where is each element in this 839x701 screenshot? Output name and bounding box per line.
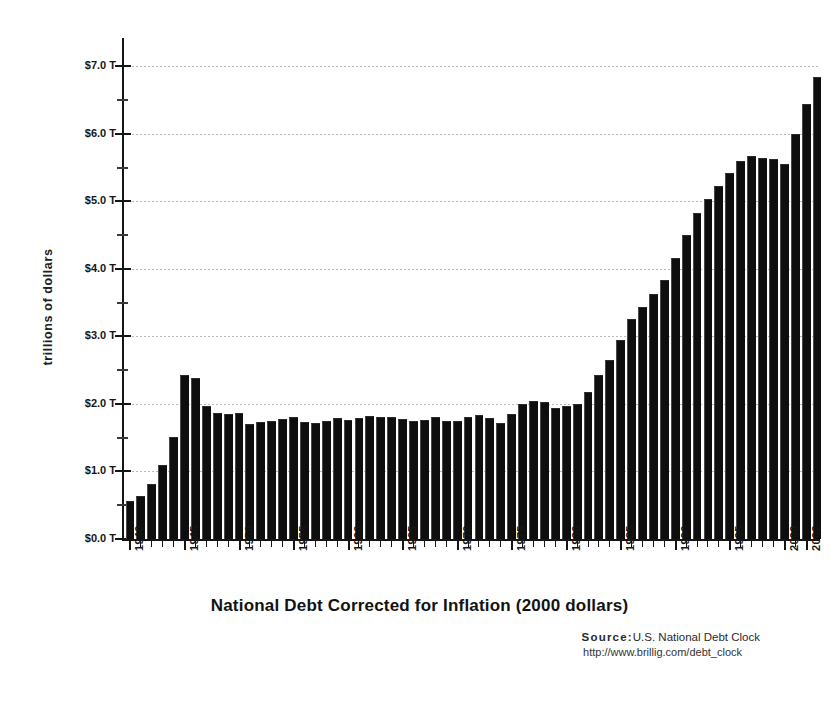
bar (158, 465, 167, 539)
y-tick-minor (117, 234, 128, 236)
bar (267, 421, 276, 540)
bar (213, 413, 222, 539)
y-tick-major (115, 65, 131, 67)
x-tick (686, 539, 687, 547)
y-tick-major (115, 200, 131, 202)
x-tick (620, 539, 622, 550)
bar (518, 404, 527, 539)
bar (791, 134, 800, 539)
x-tick (435, 539, 436, 547)
x-tick (522, 539, 523, 547)
bar (671, 258, 680, 539)
x-tick (402, 539, 404, 550)
y-tick-label: $1.0 T (46, 464, 116, 476)
x-tick (740, 539, 741, 547)
x-tick (729, 539, 731, 550)
bar (475, 415, 484, 539)
gridline (124, 66, 820, 67)
y-tick-minor (117, 99, 128, 101)
bar (464, 417, 473, 539)
bar (605, 360, 614, 539)
x-tick (751, 539, 752, 547)
bar (704, 199, 713, 539)
bar (562, 406, 571, 539)
x-tick (195, 539, 196, 547)
bar (202, 406, 211, 539)
y-tick-label: $7.0 T (46, 59, 116, 71)
y-tick-label: $0.0 T (46, 532, 116, 544)
bar (747, 156, 756, 539)
bar (714, 186, 723, 539)
y-tick-label: $6.0 T (46, 127, 116, 139)
bar (289, 417, 298, 539)
source-name: U.S. National Debt Clock (633, 631, 760, 643)
bar (627, 319, 636, 539)
x-tick (304, 539, 305, 547)
x-tick (784, 539, 786, 550)
x-tick (697, 539, 698, 547)
x-tick-label: 2002 (810, 525, 822, 551)
bar (442, 421, 451, 539)
bar (813, 77, 822, 539)
x-tick (151, 539, 152, 547)
y-tick-major (115, 133, 131, 135)
y-tick-minor (117, 369, 128, 371)
y-axis-line (122, 38, 124, 539)
y-tick-label: $5.0 T (46, 194, 116, 206)
source-note: Source:U.S. National Debt Clock http://w… (0, 630, 760, 660)
bar (278, 419, 287, 539)
bar (431, 417, 440, 539)
x-tick (228, 539, 229, 547)
y-tick-minor (117, 302, 128, 304)
bar (693, 213, 702, 540)
bar (224, 414, 233, 539)
x-tick (577, 539, 578, 547)
y-tick-label: $3.0 T (46, 329, 116, 341)
bar (638, 307, 647, 539)
x-tick (533, 539, 534, 547)
source-url: http://www.brillig.com/debt_clock (0, 645, 760, 660)
x-tick (173, 539, 174, 547)
bar (682, 235, 691, 539)
y-tick-major (115, 470, 131, 472)
bar (344, 420, 353, 539)
x-tick (642, 539, 643, 547)
bar (616, 340, 625, 539)
bar (736, 161, 745, 539)
y-tick-major (115, 335, 131, 337)
bar (551, 408, 560, 539)
x-tick (511, 539, 513, 550)
x-tick (326, 539, 327, 547)
x-tick (162, 539, 163, 547)
bar (660, 280, 669, 539)
bar (355, 418, 364, 539)
x-tick (446, 539, 447, 547)
bar (594, 375, 603, 539)
y-tick-major (115, 403, 131, 405)
bar (409, 421, 418, 539)
x-tick (795, 539, 796, 547)
x-tick (653, 539, 654, 547)
bar (584, 392, 593, 539)
bar (376, 417, 385, 539)
x-tick (369, 539, 370, 547)
x-tick (468, 539, 469, 547)
x-tick (140, 539, 141, 547)
bar (322, 421, 331, 540)
x-tick (762, 539, 763, 547)
bar (300, 422, 309, 539)
x-tick (358, 539, 359, 547)
source-label: Source: (582, 631, 633, 643)
bar (191, 378, 200, 539)
x-tick (348, 539, 350, 550)
x-tick (260, 539, 261, 547)
bar (529, 401, 538, 539)
bar (507, 414, 516, 539)
bar (780, 164, 789, 539)
x-tick (631, 539, 632, 547)
x-tick (239, 539, 241, 550)
bar (485, 418, 494, 539)
chart-title: National Debt Corrected for Inflation (2… (0, 596, 839, 616)
bar (540, 402, 549, 539)
bar (453, 421, 462, 540)
